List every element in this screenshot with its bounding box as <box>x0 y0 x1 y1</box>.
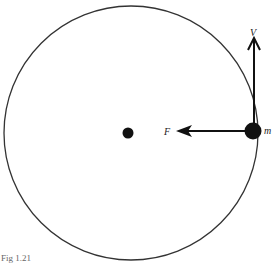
force-arrow <box>176 125 246 137</box>
circular-motion-diagram: V F m <box>0 0 274 265</box>
center-point <box>123 128 134 139</box>
velocity-arrow <box>248 38 260 124</box>
mass-point <box>245 123 262 140</box>
force-label: F <box>163 126 171 137</box>
velocity-label: V <box>250 27 258 38</box>
mass-label: m <box>264 125 271 136</box>
figure-caption: Fig 1.21 <box>1 253 31 263</box>
